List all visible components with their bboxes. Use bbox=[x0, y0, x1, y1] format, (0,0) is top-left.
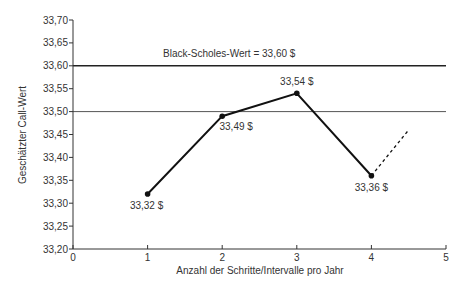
data-point-marker bbox=[294, 90, 300, 96]
y-tick-label: 33,40 bbox=[43, 152, 68, 163]
x-tick-label: 2 bbox=[219, 252, 225, 263]
data-point-label: 33,36 $ bbox=[355, 182, 389, 193]
trend-dashed-line bbox=[371, 130, 408, 176]
y-tick-label: 33,35 bbox=[43, 175, 68, 186]
y-tick-label: 33,45 bbox=[43, 129, 68, 140]
y-tick-label: 33,55 bbox=[43, 83, 68, 94]
data-point-marker bbox=[145, 191, 151, 197]
x-tick-label: 3 bbox=[294, 252, 300, 263]
x-axis-title: Anzahl der Schritte/Intervalle pro Jahr bbox=[176, 265, 344, 276]
y-axis-title: Geschätzter Call-Wert bbox=[17, 86, 28, 184]
chart: 33,2033,2533,3033,3533,4033,4533,5033,55… bbox=[0, 0, 466, 286]
data-point-label: 33,49 $ bbox=[220, 121, 254, 132]
y-tick-label: 33,20 bbox=[43, 244, 68, 255]
data-point-marker bbox=[219, 113, 225, 119]
black-scholes-label: Black-Scholes-Wert = 33,60 $ bbox=[163, 48, 296, 59]
x-tick-label: 1 bbox=[145, 252, 151, 263]
x-tick-label: 0 bbox=[70, 252, 76, 263]
x-tick-label: 5 bbox=[443, 252, 449, 263]
y-tick-label: 33,70 bbox=[43, 15, 68, 26]
data-series: 33,32 $33,49 $33,54 $33,36 $ bbox=[130, 76, 409, 211]
data-point-label: 33,54 $ bbox=[280, 76, 314, 87]
series-line bbox=[148, 93, 372, 194]
data-point-label: 33,32 $ bbox=[130, 200, 164, 211]
x-tick-label: 4 bbox=[369, 252, 375, 263]
y-tick-label: 33,60 bbox=[43, 60, 68, 71]
y-tick-label: 33,65 bbox=[43, 37, 68, 48]
y-tick-label: 33,30 bbox=[43, 198, 68, 209]
y-tick-label: 33,25 bbox=[43, 221, 68, 232]
y-tick-label: 33,50 bbox=[43, 106, 68, 117]
